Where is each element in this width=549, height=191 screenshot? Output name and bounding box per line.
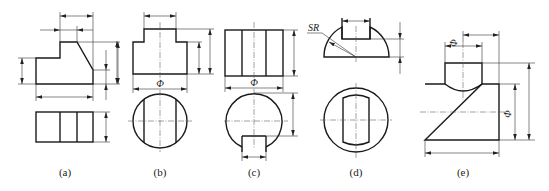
panel-b-label: (b)	[154, 166, 167, 179]
panel-d: SR (d)	[307, 18, 404, 179]
panel-e: Φ Φ (e)	[420, 31, 535, 179]
panel-a-front-view	[18, 12, 120, 101]
panel-c-front-view: Φ	[225, 22, 298, 92]
panel-c-top-view	[224, 89, 298, 161]
panel-d-front-view: SR	[307, 18, 404, 74]
panel-c-label: (c)	[248, 166, 261, 179]
panel-c: Φ (c)	[224, 22, 298, 179]
panel-a: (a)	[18, 12, 120, 179]
panel-b-diameter-symbol: Φ	[156, 78, 164, 89]
panel-e-large-diameter-symbol: Φ	[502, 110, 513, 118]
panel-e-front-view: Φ Φ	[420, 31, 535, 157]
panel-a-top-view	[36, 112, 110, 142]
panel-e-label: (e)	[457, 166, 470, 179]
panel-d-top-view	[320, 83, 392, 158]
panel-a-label: (a)	[59, 166, 72, 179]
panel-b: Φ (b)	[128, 12, 214, 179]
panel-d-sphere-radius-symbol: SR	[308, 22, 319, 33]
panel-d-label: (d)	[350, 166, 363, 179]
panel-b-top-view	[128, 90, 192, 152]
panel-b-front-view: Φ	[133, 12, 214, 93]
panel-c-diameter-symbol: Φ	[250, 77, 258, 88]
panel-e-small-diameter-symbol: Φ	[448, 39, 459, 47]
drawing-canvas: (a) Φ (b)	[0, 0, 549, 191]
